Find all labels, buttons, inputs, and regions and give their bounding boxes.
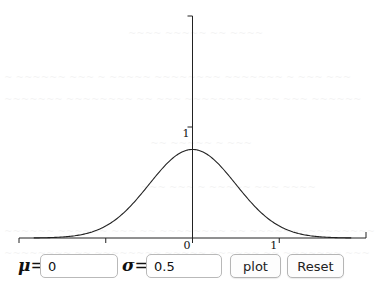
x-tick-label: 0: [184, 239, 191, 250]
x-tick-label: 1: [270, 239, 277, 250]
plot-button[interactable]: plot: [230, 254, 281, 278]
y-tick-label: 1: [183, 127, 190, 140]
sigma-label: σ=: [122, 255, 149, 275]
pdf-plot: 01 1: [0, 0, 380, 250]
parameter-controls: μ= σ= plot Reset: [0, 253, 380, 281]
reset-button[interactable]: Reset: [287, 254, 344, 278]
sigma-input[interactable]: [146, 254, 222, 278]
y-axis-ticks: 1: [183, 16, 193, 140]
mu-input[interactable]: [40, 254, 118, 278]
